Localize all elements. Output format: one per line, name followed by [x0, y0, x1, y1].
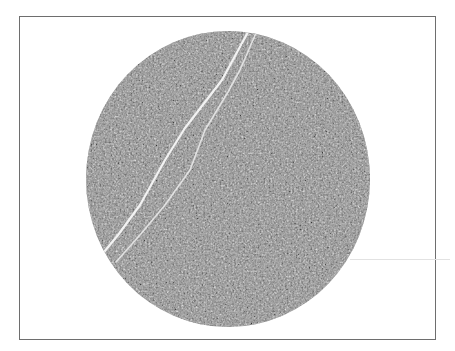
- ct-scan-image: [0, 0, 455, 351]
- faint-horizontal-line: [350, 259, 450, 260]
- specimen-disk: [80, 25, 380, 335]
